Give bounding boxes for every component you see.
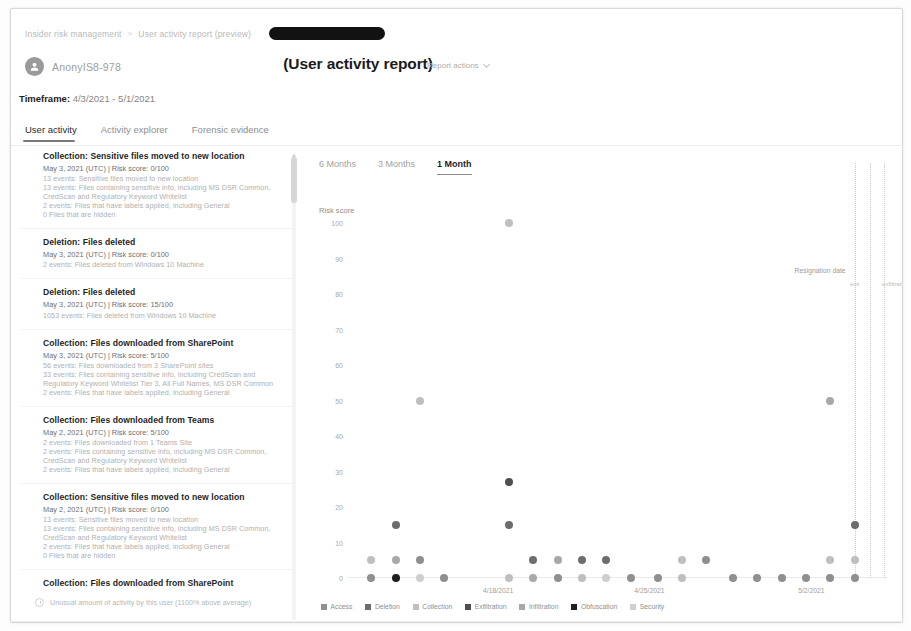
tab-forensic-evidence[interactable]: Forensic evidence <box>190 121 271 142</box>
chart-data-point[interactable] <box>851 574 859 582</box>
legend-label: Collection <box>422 603 452 610</box>
activity-list[interactable]: Collection: Sensitive files moved to new… <box>21 151 299 621</box>
range-tab-6-months[interactable]: 6 Months <box>319 159 356 175</box>
chart-data-point[interactable] <box>678 556 686 564</box>
deletion-icon <box>25 288 35 298</box>
chart-x-tick: 4/18/2021 <box>483 587 513 594</box>
report-sheet: Insider risk management > User activity … <box>10 8 903 623</box>
legend-label: Infiltration <box>529 603 558 610</box>
title-row: AnonyIS8-978 (User activity report) Repo… <box>25 55 887 85</box>
activity-event-divider <box>21 228 293 229</box>
scroll-up-icon[interactable]: ▲ <box>291 153 297 158</box>
chart-data-point[interactable] <box>578 556 586 564</box>
resignation-sub-label: exit <box>850 281 859 287</box>
chart-data-point[interactable] <box>627 574 635 582</box>
chart-data-point[interactable] <box>392 574 400 582</box>
tab-activity-explorer[interactable]: Activity explorer <box>99 121 170 142</box>
chart-data-point[interactable] <box>416 574 424 582</box>
chart-data-point[interactable] <box>729 574 737 582</box>
chart-data-point[interactable] <box>826 397 834 405</box>
legend-label: Deletion <box>375 603 400 610</box>
activity-event-title: Collection: Sensitive files moved to new… <box>43 151 293 162</box>
activity-event-detail: 13 events: Sensitive files moved to new … <box>43 174 293 183</box>
chart-y-tick: 80 <box>321 291 343 298</box>
legend-item-infiltration[interactable]: Infiltration <box>519 603 558 610</box>
legend-item-exfiltration[interactable]: Exfiltration <box>465 603 506 610</box>
sheet-bottom-edge <box>11 621 902 622</box>
timeframe: Timeframe: 4/3/2021 - 5/1/2021 <box>19 93 155 104</box>
range-tab-3-months[interactable]: 3 Months <box>378 159 415 175</box>
activity-event-divider <box>21 569 293 570</box>
activity-event[interactable]: Collection: Files downloaded from ShareP… <box>21 578 299 589</box>
username-label: AnonyIS8-978 <box>52 61 121 73</box>
chart-data-point[interactable] <box>753 574 761 582</box>
activity-event[interactable]: Collection: Files downloaded from TeamsM… <box>21 415 299 474</box>
legend-item-deletion[interactable]: Deletion <box>365 603 399 610</box>
chart-x-tick: 4/25/2021 <box>634 587 664 594</box>
breadcrumb-item-insider-risk-management[interactable]: Insider risk management <box>25 29 122 39</box>
activity-event[interactable]: Collection: Sensitive files moved to new… <box>21 151 299 219</box>
tab-user-activity[interactable]: User activity <box>23 121 79 142</box>
report-actions-button[interactable]: Report actions <box>427 61 491 70</box>
chart-y-tick: 40 <box>321 433 343 440</box>
chart-data-point[interactable] <box>602 574 610 582</box>
activity-event[interactable]: Deletion: Files deletedMay 3, 2021 (UTC)… <box>21 237 299 269</box>
chart-data-point[interactable] <box>367 556 375 564</box>
chart-plot-area: 01020304050607080901004/18/20214/25/2021… <box>347 223 887 578</box>
activity-event[interactable]: Collection: Sensitive files moved to new… <box>21 492 299 560</box>
legend-item-obfuscation[interactable]: Obfuscation <box>571 603 617 610</box>
chart-data-point[interactable] <box>505 521 513 529</box>
legend-label: Obfuscation <box>581 603 617 610</box>
collection-icon <box>25 339 35 349</box>
legend-label: Exfiltration <box>475 603 507 610</box>
activity-event-detail: 2 events: Files that have labels applied… <box>43 542 293 551</box>
chart-data-point[interactable] <box>554 574 562 582</box>
breadcrumb-item-user-activity-report[interactable]: User activity report (preview) <box>138 29 251 39</box>
chart-data-point[interactable] <box>802 574 810 582</box>
screenshot-page: Insider risk management > User activity … <box>0 0 911 631</box>
activity-event-meta: May 2, 2021 (UTC) | Risk score: 5/100 <box>43 428 293 437</box>
activity-event[interactable]: Deletion: Files deletedMay 3, 2021 (UTC)… <box>21 287 299 319</box>
legend-label: Access <box>331 603 353 610</box>
legend-item-security[interactable]: Security <box>630 603 664 610</box>
legend-item-access[interactable]: Access <box>321 603 352 610</box>
chart-data-point[interactable] <box>602 556 610 564</box>
chart-data-point[interactable] <box>505 219 513 227</box>
activity-event-title: Collection: Files downloaded from ShareP… <box>43 578 293 589</box>
person-icon <box>25 57 44 76</box>
chart-data-point[interactable] <box>826 556 834 564</box>
chart-data-point[interactable] <box>367 574 375 582</box>
range-tab-1-month[interactable]: 1 Month <box>437 159 472 175</box>
activity-list-scrollbar-thumb[interactable] <box>291 157 297 203</box>
activity-insight-text: Unusual amount of activity by this user … <box>50 598 251 607</box>
activity-event-meta: May 3, 2021 (UTC) | Risk score: 0/100 <box>43 250 293 259</box>
chart-data-point[interactable] <box>392 556 400 564</box>
legend-item-collection[interactable]: Collection <box>413 603 452 610</box>
chart-data-point[interactable] <box>678 574 686 582</box>
tabs-divider <box>11 145 902 146</box>
chart-data-point[interactable] <box>416 397 424 405</box>
activity-event-detail: 2 events: Files that have labels applied… <box>43 201 293 210</box>
main-tabs: User activityActivity explorerForensic e… <box>23 121 271 142</box>
chart-data-point[interactable] <box>702 556 710 564</box>
activity-event-meta: May 2, 2021 (UTC) | Risk score: 0/100 <box>43 505 293 514</box>
chart-data-point[interactable] <box>392 521 400 529</box>
chart-data-point[interactable] <box>529 574 537 582</box>
chart-data-point[interactable] <box>505 478 513 486</box>
chart-data-point[interactable] <box>826 574 834 582</box>
chart-data-point[interactable] <box>778 574 786 582</box>
legend-swatch-icon <box>465 604 471 610</box>
chart-data-point[interactable] <box>440 574 448 582</box>
chart-data-point[interactable] <box>578 574 586 582</box>
chart-data-point[interactable] <box>505 574 513 582</box>
chart-data-point[interactable] <box>851 521 859 529</box>
chart-y-tick: 50 <box>321 397 343 404</box>
chart-resignation-line <box>855 163 856 578</box>
chart-data-point[interactable] <box>654 574 662 582</box>
chart-data-point[interactable] <box>529 556 537 564</box>
chart-data-point[interactable] <box>851 556 859 564</box>
activity-list-scrollbar-track[interactable] <box>292 155 296 620</box>
chart-data-point[interactable] <box>554 556 562 564</box>
chart-data-point[interactable] <box>416 556 424 564</box>
activity-event[interactable]: Collection: Files downloaded from ShareP… <box>21 338 299 397</box>
